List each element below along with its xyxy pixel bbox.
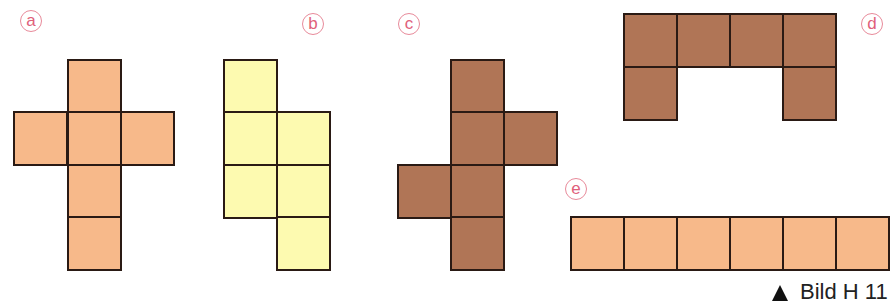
net-d-square — [676, 13, 731, 68]
net-c-square — [503, 111, 558, 166]
net-a-square — [13, 111, 68, 166]
net-a-square — [67, 164, 122, 219]
net-a-square — [120, 111, 175, 166]
net-e-square — [676, 216, 731, 271]
net-d-square — [782, 13, 837, 68]
net-b-square — [276, 164, 331, 219]
net-b-square — [276, 216, 331, 271]
net-c-square — [450, 164, 505, 219]
net-a-square — [67, 216, 122, 271]
net-c-square — [450, 111, 505, 166]
triangle-marker-icon — [772, 285, 788, 301]
net-d-square — [623, 13, 678, 68]
net-d-square — [623, 66, 678, 121]
net-d-square — [782, 66, 837, 121]
net-a-square — [67, 111, 122, 166]
net-b-square — [276, 111, 331, 166]
net-e-square — [782, 216, 837, 271]
net-label-e: e — [565, 178, 587, 200]
net-b-square — [223, 59, 278, 114]
net-e-square — [729, 216, 784, 271]
net-label-c: c — [398, 13, 420, 35]
net-c-square — [450, 216, 505, 271]
net-b-square — [223, 164, 278, 219]
net-e-square — [623, 216, 678, 271]
net-e-square — [835, 216, 890, 271]
net-b-square — [223, 111, 278, 166]
net-e-square — [570, 216, 625, 271]
net-label-a: a — [20, 10, 42, 32]
net-a-square — [67, 59, 122, 114]
net-c-square — [450, 59, 505, 114]
net-label-b: b — [302, 13, 324, 35]
net-d-square — [729, 13, 784, 68]
figure-caption: Bild H 11 — [800, 279, 888, 305]
net-c-square — [397, 164, 452, 219]
net-label-d: d — [861, 13, 883, 35]
